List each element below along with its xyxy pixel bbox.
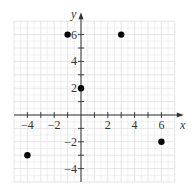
y-tick-label: −2 [64,135,77,149]
data-point [158,139,164,145]
y-tick-label: 6 [71,28,77,42]
x-tick-label: 4 [132,118,138,132]
x-tick-label: 6 [158,118,164,132]
data-point [78,85,84,91]
y-tick-label: 2 [71,81,77,95]
y-tick-label: −4 [64,162,77,176]
x-tick-label: −2 [48,118,61,132]
data-point [24,152,30,158]
x-axis-arrow-icon [177,113,184,118]
axes [14,12,184,182]
scatter-chart: −4−2246−4−2246 x y [0,0,194,191]
data-point [118,31,124,37]
grid [14,21,175,182]
x-tick-label: 2 [105,118,111,132]
x-tick-label: −4 [21,118,34,132]
data-point [64,31,70,37]
y-tick-label: 4 [71,54,77,68]
x-axis-label: x [179,118,186,132]
y-axis-label: y [70,7,77,21]
y-axis-arrow-icon [79,12,84,19]
